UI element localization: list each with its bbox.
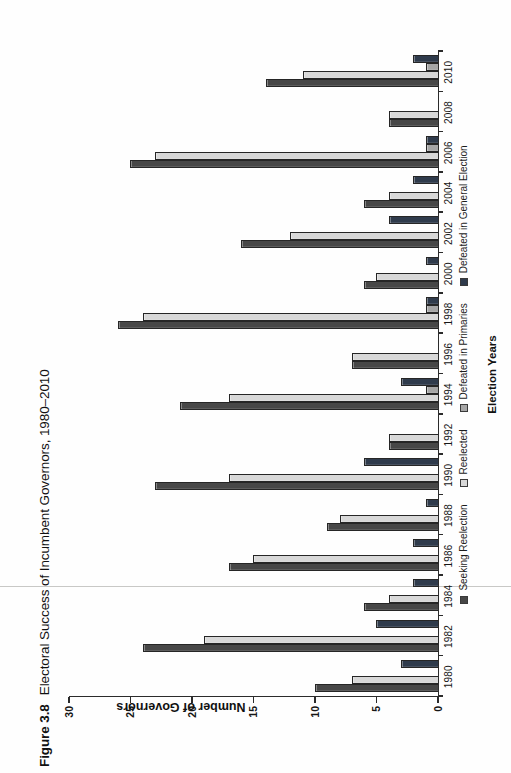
- x-year-label: 2002: [443, 222, 454, 245]
- x-year-label: 1992: [443, 423, 454, 446]
- bar: [376, 620, 438, 628]
- bar-group-1988: [69, 494, 438, 534]
- bar: [426, 63, 438, 71]
- bar: [413, 55, 438, 63]
- bar: [401, 378, 438, 386]
- bar-group-1998: [69, 293, 438, 333]
- x-year-label: 1982: [443, 625, 454, 648]
- bar: [413, 176, 438, 184]
- legend-item: Reelected: [458, 429, 469, 487]
- bar: [401, 660, 438, 668]
- x-year-label: 1996: [443, 343, 454, 366]
- bar-group-1982: [69, 615, 438, 655]
- y-tick: [376, 698, 378, 704]
- x-year-label: 1986: [443, 544, 454, 567]
- bar: [180, 402, 438, 410]
- x-year-label: 1988: [443, 504, 454, 527]
- bar: [389, 595, 438, 603]
- bar: [118, 321, 438, 329]
- x-year-label: 1994: [443, 383, 454, 406]
- legend-label: Defeated in Primaries: [458, 303, 469, 399]
- y-tick-label: 0: [432, 706, 444, 742]
- bar-group-2004: [69, 172, 438, 212]
- bar-group-1980: [69, 656, 438, 696]
- y-tick: [68, 698, 70, 704]
- bar-group-2006: [69, 132, 438, 172]
- x-year-label: 2006: [443, 141, 454, 164]
- legend-swatch: [460, 596, 468, 604]
- x-axis-year-labels: 1980198219841986198819901992199419961998…: [443, 52, 457, 697]
- bar: [229, 563, 438, 571]
- bar: [389, 442, 438, 450]
- bar: [413, 539, 438, 547]
- y-tick-label: 25: [124, 706, 136, 742]
- bar: [155, 482, 438, 490]
- x-year-label: 2010: [443, 61, 454, 84]
- bar: [426, 257, 438, 265]
- legend-item: Seeking Reelection: [458, 504, 469, 603]
- bar: [241, 240, 438, 248]
- figure-title-text: Electoral Success of Incumbent Governors…: [37, 369, 52, 695]
- bar: [143, 313, 438, 321]
- x-year-label: 1984: [443, 585, 454, 608]
- y-tick: [191, 698, 193, 704]
- bar: [352, 361, 438, 369]
- bar-group-1994: [69, 374, 438, 414]
- bar: [364, 200, 438, 208]
- legend-swatch: [460, 479, 468, 487]
- bar: [352, 676, 438, 684]
- bar: [352, 353, 438, 361]
- bar: [130, 160, 438, 168]
- page: Figure 3.8Electoral Success of Incumbent…: [0, 0, 511, 773]
- bar-group-1992: [69, 414, 438, 454]
- x-year-label: 2008: [443, 101, 454, 124]
- bar: [426, 386, 438, 394]
- rotated-chart-canvas: Figure 3.8Electoral Success of Incumbent…: [0, 0, 511, 773]
- bar: [253, 555, 438, 563]
- y-tick: [130, 698, 132, 704]
- bar: [340, 515, 438, 523]
- bar: [389, 216, 438, 224]
- bar: [426, 305, 438, 313]
- y-tick-label: 30: [63, 706, 75, 742]
- y-tick: [314, 698, 316, 704]
- bar-group-1996: [69, 333, 438, 373]
- bar: [426, 136, 438, 144]
- legend-swatch: [460, 278, 468, 286]
- x-year-label: 2000: [443, 262, 454, 285]
- bar: [315, 684, 438, 692]
- y-tick-label: 5: [370, 706, 382, 742]
- bar-group-1986: [69, 535, 438, 575]
- bar-group-2000: [69, 253, 438, 293]
- x-year-label: 2004: [443, 182, 454, 205]
- bar: [426, 499, 438, 507]
- figure-title: Figure 3.8Electoral Success of Incumbent…: [37, 369, 52, 767]
- bar: [266, 79, 438, 87]
- legend-label: Defeated in General Election: [458, 145, 469, 273]
- bar: [426, 297, 438, 305]
- bar: [364, 281, 438, 289]
- x-axis-title: Election Years: [486, 52, 498, 697]
- legend-label: Seeking Reelection: [458, 504, 469, 590]
- bar: [143, 644, 438, 652]
- y-tick: [437, 698, 439, 704]
- bar-group-1984: [69, 575, 438, 615]
- legend-swatch: [460, 404, 468, 412]
- bar: [413, 579, 438, 587]
- bar: [426, 144, 438, 152]
- figure-number: Figure 3.8: [37, 704, 52, 767]
- y-tick-label: 20: [186, 706, 198, 742]
- bar-group-2010: [69, 51, 438, 91]
- bar: [389, 192, 438, 200]
- bar: [327, 523, 438, 531]
- bar-group-2002: [69, 212, 438, 252]
- x-year-label: 1990: [443, 464, 454, 487]
- legend-item: Defeated in Primaries: [458, 303, 469, 412]
- bar: [376, 273, 438, 281]
- x-year-label: 1980: [443, 665, 454, 688]
- bar: [389, 119, 438, 127]
- bar: [389, 434, 438, 442]
- bar: [364, 603, 438, 611]
- bar-group-2008: [69, 91, 438, 131]
- bar: [364, 458, 438, 466]
